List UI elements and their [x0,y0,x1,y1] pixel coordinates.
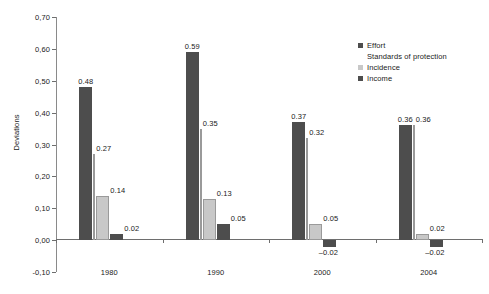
y-axis-tick-labels: 0,700,600,500,400,300,200,100,00-0,10 [0,0,50,294]
legend-swatch-icon [358,54,363,59]
x-tick-mark [163,239,164,243]
legend-item[interactable]: Incidence [358,62,447,73]
bar-standards-of-protection[interactable] [413,125,415,240]
legend-item[interactable]: Income [358,73,447,84]
bar-income[interactable] [217,224,230,240]
bar-standards-of-protection[interactable] [93,154,95,240]
bar-column: 0.05 [217,17,230,272]
legend-item[interactable]: Effort [358,40,447,51]
x-tick-mark [56,239,57,243]
bar-value-label: –0.02 [319,248,338,257]
bar-income[interactable] [323,240,336,246]
legend-swatch-icon [358,43,363,48]
legend-label: Incidence [367,63,400,72]
bar-value-label: 0.36 [398,115,413,124]
legend-label: Effort [367,41,385,50]
bar-column: 0.27 [93,17,95,272]
bar-value-label: 0.59 [185,42,200,51]
y-tick-label: -0,10 [16,268,50,277]
bar-value-label: 0.48 [78,77,93,86]
bar-column: 0.37 [292,17,305,272]
bar-column: 0.35 [200,17,202,272]
y-tick-label: 0,20 [16,172,50,181]
x-tick-label: 2000 [314,268,331,277]
bar-value-label: 0.02 [124,224,139,233]
y-tick-label: 0,10 [16,204,50,213]
bar-incidence[interactable] [96,196,109,241]
bar-value-label: –0.02 [425,248,444,257]
legend-swatch-icon [358,76,363,81]
legend-swatch-icon [358,65,363,70]
bar-incidence[interactable] [309,224,322,240]
bar-income[interactable] [110,234,123,240]
legend-item[interactable]: Standards of protection [358,51,447,62]
bar-effort[interactable] [399,125,412,240]
bar-value-label: 0.05 [231,214,246,223]
bar-column: 0.02 [110,17,123,272]
bar-effort[interactable] [186,52,199,240]
bar-effort[interactable] [292,122,305,240]
x-tick-mark [376,239,377,243]
x-tick-mark [482,239,483,243]
x-tick-label: 2004 [420,268,437,277]
bar-column: 0.13 [203,17,216,272]
y-tick-mark [52,272,56,273]
y-tick-label: 0,70 [16,13,50,22]
y-tick-label: 0,50 [16,76,50,85]
bar-column: 0.05 [309,17,322,272]
bar-column: 0.48 [79,17,92,272]
y-tick-label: 0,60 [16,44,50,53]
bar-standards-of-protection[interactable] [306,138,308,240]
bar-column: 0.59 [186,17,199,272]
bar-standards-of-protection[interactable] [200,129,202,241]
bar-group: 0.370.320.05–0.02 [292,17,336,272]
bar-group: 0.480.270.140.02 [79,17,123,272]
x-tick-label: 1990 [207,268,224,277]
bar-income[interactable] [430,240,443,246]
y-tick-label: 0,00 [16,236,50,245]
x-tick-mark [269,239,270,243]
bar-incidence[interactable] [416,234,429,240]
y-tick-label: 0,40 [16,108,50,117]
bar-chart-figure: Deviations 0,700,600,500,400,300,200,100… [0,0,489,294]
legend-label: Standards of protection [367,52,447,61]
x-tick-label: 1980 [101,268,118,277]
bar-column: 0.14 [96,17,109,272]
legend-label: Income [367,74,392,83]
bar-effort[interactable] [79,87,92,240]
bar-value-label: 0.37 [291,112,306,121]
y-tick-label: 0,30 [16,140,50,149]
bar-column: 0.32 [306,17,308,272]
bar-column: –0.02 [323,17,336,272]
bar-incidence[interactable] [203,199,216,240]
bar-group: 0.590.350.130.05 [186,17,230,272]
chart-legend: EffortStandards of protectionIncidenceIn… [358,40,447,84]
